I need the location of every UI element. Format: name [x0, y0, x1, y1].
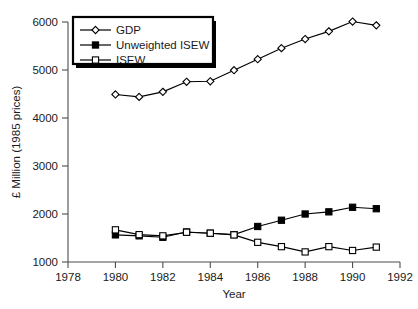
data-point: [278, 244, 284, 250]
x-tick-label: 1978: [55, 271, 81, 283]
data-point: [349, 18, 356, 25]
data-point: [230, 67, 237, 74]
x-tick-label: 1980: [103, 271, 129, 283]
data-point: [255, 223, 261, 229]
data-point: [159, 88, 166, 95]
data-point: [207, 78, 214, 85]
y-axis-ticks: 100020003000400050006000: [32, 16, 68, 268]
legend-label: Unweighted ISEW: [116, 39, 209, 51]
line-chart: 100020003000400050006000 197819801982198…: [0, 0, 418, 309]
data-point: [325, 28, 332, 35]
data-point: [278, 217, 284, 223]
x-tick-label: 1988: [292, 271, 318, 283]
legend-marker-filled-square: [92, 42, 98, 48]
data-point: [302, 249, 308, 255]
series-path: [115, 230, 376, 252]
data-point: [326, 209, 332, 215]
x-tick-label: 1982: [150, 271, 176, 283]
x-tick-label: 1992: [387, 271, 413, 283]
x-tick-label: 1984: [197, 271, 223, 283]
data-point: [136, 93, 143, 100]
data-point: [207, 230, 213, 236]
data-point: [231, 232, 237, 238]
data-point: [112, 91, 119, 98]
x-tick-label: 1986: [245, 271, 271, 283]
data-point: [373, 244, 379, 250]
chart-legend: GDPUnweighted ISEWISEW: [73, 17, 216, 68]
legend-marker-open-square: [92, 57, 98, 63]
chart-figure: 100020003000400050006000 197819801982198…: [0, 0, 418, 309]
data-point: [349, 204, 355, 210]
data-point: [326, 244, 332, 250]
data-point: [278, 45, 285, 52]
data-point: [112, 227, 118, 233]
legend-label: GDP: [116, 24, 141, 36]
data-point: [255, 239, 261, 245]
y-tick-label: 6000: [32, 16, 58, 28]
data-point: [254, 56, 261, 63]
data-point: [160, 233, 166, 239]
legend-label: ISEW: [116, 54, 146, 66]
data-point: [136, 232, 142, 238]
y-tick-label: 5000: [32, 64, 58, 76]
y-tick-label: 2000: [32, 208, 58, 220]
x-tick-label: 1990: [340, 271, 366, 283]
y-tick-label: 4000: [32, 112, 58, 124]
data-point: [183, 229, 189, 235]
data-point: [302, 35, 309, 42]
y-tick-label: 1000: [32, 256, 58, 268]
y-tick-label: 3000: [32, 160, 58, 172]
y-axis-title: £ Million (1985 prices): [10, 86, 22, 199]
data-point: [373, 22, 380, 29]
data-point: [302, 211, 308, 217]
x-axis-ticks: 19781980198219841986198819901992: [55, 262, 413, 283]
data-point: [183, 78, 190, 85]
x-axis-title: Year: [222, 288, 245, 300]
data-point: [349, 247, 355, 253]
series-path: [115, 207, 376, 237]
data-point: [373, 206, 379, 212]
